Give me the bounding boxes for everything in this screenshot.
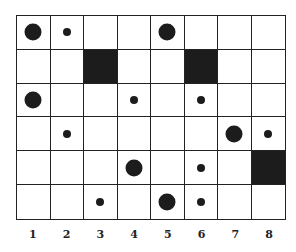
small-dot-icon — [130, 96, 138, 104]
column-label: 7 — [219, 228, 253, 241]
large-dot-icon — [25, 24, 42, 41]
grid-cell — [84, 185, 118, 219]
grid-cell — [17, 84, 51, 118]
grid-cell — [17, 16, 51, 50]
grid-cell-filled — [84, 50, 118, 84]
grid-cell — [84, 151, 118, 185]
grid-cell — [185, 185, 219, 219]
grid-cell — [118, 117, 152, 151]
grid-cell — [218, 151, 252, 185]
grid-cell — [118, 50, 152, 84]
grid-cell — [17, 117, 51, 151]
grid-cell — [218, 16, 252, 50]
grid-cell — [252, 50, 286, 84]
grid-cell — [151, 16, 185, 50]
small-dot-icon — [197, 198, 205, 206]
grid-cell — [118, 84, 152, 118]
grid-cell — [17, 50, 51, 84]
grid-cell — [51, 16, 85, 50]
grid-cell — [84, 117, 118, 151]
grid-cell — [151, 50, 185, 84]
grid-cell — [185, 84, 219, 118]
small-dot-icon — [63, 130, 71, 138]
grid-cell — [118, 16, 152, 50]
grid-cell — [252, 84, 286, 118]
grid-cell — [218, 84, 252, 118]
column-label: 4 — [117, 228, 151, 241]
grid-cell — [185, 117, 219, 151]
column-label: 5 — [151, 228, 185, 241]
grid-cell — [252, 117, 286, 151]
grid-cell — [51, 50, 85, 84]
large-dot-icon — [125, 159, 142, 176]
small-dot-icon — [264, 130, 272, 138]
grid-cell — [218, 185, 252, 219]
grid-cell — [51, 185, 85, 219]
large-dot-icon — [159, 24, 176, 41]
small-dot-icon — [197, 96, 205, 104]
column-label: 6 — [185, 228, 219, 241]
large-dot-icon — [159, 194, 176, 211]
grid-cell — [218, 50, 252, 84]
grid-cell — [17, 185, 51, 219]
grid-cell — [218, 117, 252, 151]
column-label: 1 — [16, 228, 50, 241]
large-dot-icon — [25, 92, 42, 109]
large-dot-icon — [226, 125, 243, 142]
grid-board — [16, 15, 286, 220]
grid-cell — [84, 84, 118, 118]
grid-cell — [51, 84, 85, 118]
grid-cell-filled — [252, 151, 286, 185]
grid-cell — [185, 151, 219, 185]
column-label: 2 — [50, 228, 84, 241]
column-label: 3 — [84, 228, 118, 241]
small-dot-icon — [96, 198, 104, 206]
grid-cell — [84, 16, 118, 50]
column-labels: 1 2 3 4 5 6 7 8 — [16, 228, 286, 241]
grid-cell — [118, 185, 152, 219]
grid-cell — [252, 185, 286, 219]
small-dot-icon — [63, 28, 71, 36]
grid-cell — [51, 151, 85, 185]
column-label: 8 — [252, 228, 286, 241]
grid-cell — [118, 151, 152, 185]
grid-cell — [151, 151, 185, 185]
grid-cell — [151, 185, 185, 219]
grid-cell — [17, 151, 51, 185]
grid-cell — [252, 16, 286, 50]
grid-cell — [151, 84, 185, 118]
small-dot-icon — [197, 164, 205, 172]
grid-cell — [185, 16, 219, 50]
grid-cell-filled — [185, 50, 219, 84]
grid-cell — [51, 117, 85, 151]
grid-cell — [151, 117, 185, 151]
